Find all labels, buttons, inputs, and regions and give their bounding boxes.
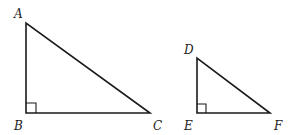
vertex-label-a: A (13, 7, 23, 21)
triangle-def-outline (197, 58, 270, 113)
triangle-abc: A B C (13, 7, 162, 133)
similar-triangles-diagram: A B C D E F (0, 0, 293, 135)
vertex-label-f: F (273, 119, 283, 133)
right-angle-marker-b (26, 103, 36, 113)
vertex-label-c: C (153, 119, 162, 133)
vertex-label-d: D (183, 43, 194, 57)
vertex-label-b: B (13, 119, 23, 133)
triangle-def: D E F (183, 43, 283, 133)
triangle-abc-outline (26, 23, 150, 113)
vertex-label-e: E (183, 119, 193, 133)
right-angle-marker-e (197, 104, 206, 113)
